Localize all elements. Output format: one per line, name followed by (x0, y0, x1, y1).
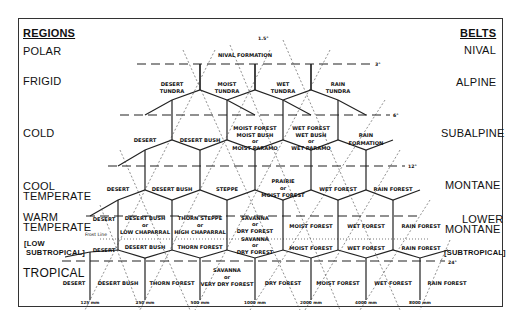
zone-tr-thorn-forest: THORN FOREST (149, 280, 195, 286)
life-zone-hexagon-grid: 1.5° 3° 6° 12° 24° NIVAL FORMATION DESER… (0, 0, 517, 331)
zone-rain-tundra-2: TUNDRA (326, 88, 350, 94)
zone-st-wet-forest: WET FOREST (347, 245, 385, 251)
zone-lm-desert: DESERT (93, 216, 116, 222)
zone-rain-tundra: RAIN (331, 81, 345, 87)
zone-st-moist-forest: MOIST FOREST (289, 245, 333, 251)
zone-rain-formation-2: FORMATION (349, 140, 384, 146)
zone-tr-wet-forest: WET FOREST (374, 280, 412, 286)
zone-montane-wet-forest: WET FOREST (319, 186, 357, 192)
zone-moist-tundra-2: TUNDRA (215, 88, 239, 94)
zone-desert-tundra: DESERT (161, 81, 184, 87)
zone-st-thorn-forest: THORN FOREST (177, 244, 223, 250)
zone-very-dry-forest: VERY DRY FOREST (200, 281, 254, 287)
precip-2000: 2000 mm (300, 300, 322, 305)
precip-8000: 8000 mm (409, 300, 431, 305)
temp-label-6: 6° (393, 113, 399, 118)
precip-4000: 4000 mm (355, 300, 377, 305)
zone-lm-wet-forest: WET FOREST (347, 223, 385, 229)
temp-label-1-5: 1.5° (258, 36, 268, 41)
zone-or-2: or (308, 138, 315, 144)
zone-or-5: or (197, 222, 204, 228)
zone-low-chaparral: LOW CHAPARRAL (120, 229, 171, 235)
temp-label-12: 12° (408, 164, 417, 169)
zone-st-rain-forest: RAIN FOREST (402, 245, 441, 251)
zone-or-7: or (252, 242, 259, 248)
zone-high-chaparral: HIGH CHAPARRAL (174, 229, 226, 235)
zone-moist-paramo: MOIST PARAMO (232, 145, 278, 151)
precip-1000: 1000 mm (244, 300, 266, 305)
zone-moist-tundra: MOIST (218, 81, 237, 87)
zone-rain-formation: RAIN (359, 132, 373, 138)
zone-lm-rain-forest: RAIN FOREST (402, 223, 441, 229)
zone-or-6: or (252, 221, 259, 227)
precip-125: 125 mm (81, 300, 101, 305)
zone-or-8: or (224, 274, 231, 280)
zone-montane-desert: DESERT (107, 186, 130, 192)
zone-montane-desert-bush: DESERT BUSH (152, 186, 192, 192)
zone-lm-desert-bush: DESERT BUSH (125, 215, 165, 221)
zone-st-desert: DESERT (93, 247, 116, 253)
zone-tr-desert: DESERT (63, 280, 86, 286)
temp-label-3: 3° (375, 62, 381, 67)
precip-250: 250 mm (136, 300, 156, 305)
zone-wet-forest-bush-paramo: WET FOREST (292, 125, 330, 131)
zone-tr-desert-bush: DESERT BUSH (98, 280, 138, 286)
zone-wet-paramo: WET PARAMO (291, 145, 331, 151)
zone-nival-formation: NIVAL FORMATION (218, 52, 272, 58)
zone-prairie: PRAIRIE (271, 178, 295, 184)
zone-steppe: STEPPE (216, 186, 238, 192)
zone-subalpine-desert: DESERT (134, 137, 157, 143)
zone-tr-savanna: SAVANNA (213, 267, 241, 273)
zone-or: or (252, 138, 259, 144)
zone-st-dry-forest: DRY FOREST (237, 249, 274, 255)
zone-wet-tundra: WET (277, 81, 290, 87)
zone-subalpine-desert-bush: DESERT BUSH (180, 137, 220, 143)
zone-lm-moist-forest: MOIST FOREST (289, 223, 333, 229)
zone-moist-forest-bush-paramo: MOIST FOREST (233, 125, 277, 131)
zone-thorn-steppe: THORN STEPPE (178, 215, 223, 221)
zone-tr-moist-forest: MOIST FOREST (316, 280, 360, 286)
zone-montane-rain-forest: RAIN FOREST (374, 186, 413, 192)
zone-tr-rain-forest: RAIN FOREST (428, 280, 467, 286)
temp-label-24: 24° (448, 260, 457, 265)
frost-line-label: Frost Line (85, 232, 107, 237)
zone-wet-tundra-2: TUNDRA (271, 88, 295, 94)
zone-lm-dry-forest: DRY FOREST (237, 228, 274, 234)
zone-st-desert-bush: DESERT BUSH (125, 244, 165, 250)
zone-desert-tundra-2: TUNDRA (160, 88, 184, 94)
zone-moist-forest-montane: MOIST FOREST (261, 192, 305, 198)
zone-or-3: or (280, 185, 287, 191)
zone-or-4: or (142, 222, 149, 228)
precip-500: 500 mm (191, 300, 211, 305)
zone-tr-dry-forest: DRY FOREST (265, 280, 302, 286)
